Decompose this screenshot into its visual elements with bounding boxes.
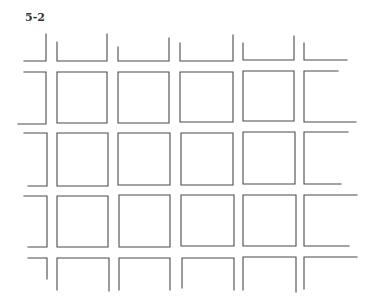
row2-cell-1	[57, 133, 108, 186]
top-row-partial-2	[57, 34, 107, 61]
row2-right-partial	[304, 132, 348, 184]
row2-cell-2	[118, 133, 170, 185]
row3-cell-3	[181, 195, 234, 246]
row2-cell-3	[181, 133, 233, 185]
row1-cell-1	[57, 72, 107, 123]
bottom-row-partial-6	[304, 257, 357, 289]
bottom-row-partial-4	[182, 258, 234, 290]
row1-left-partial	[18, 72, 46, 124]
row3-cell-1	[57, 196, 108, 247]
row2-cell-4	[243, 132, 295, 184]
top-row-partial-6	[304, 43, 347, 60]
row3-left-partial	[24, 196, 47, 247]
row1-cell-3	[180, 72, 233, 122]
row3-cell-4	[243, 195, 296, 246]
row3-cell-2	[119, 195, 170, 247]
top-row-partial-1	[24, 34, 46, 61]
row1-cell-2	[118, 72, 169, 123]
bottom-row-partial-3	[119, 258, 170, 290]
row2-left-partial	[24, 133, 47, 186]
square-grid-diagram	[0, 0, 371, 300]
row1-cell-4	[243, 71, 294, 121]
row1-right-partial	[304, 71, 356, 122]
top-row-partial-5	[243, 36, 294, 60]
top-row-partial-3	[118, 38, 169, 61]
top-row-partial-4	[180, 35, 233, 61]
row3-right-partial	[304, 195, 357, 246]
bottom-row-partial-5	[243, 257, 296, 292]
bottom-row-partial-2	[57, 258, 109, 291]
bottom-row-partial-1	[28, 258, 47, 279]
